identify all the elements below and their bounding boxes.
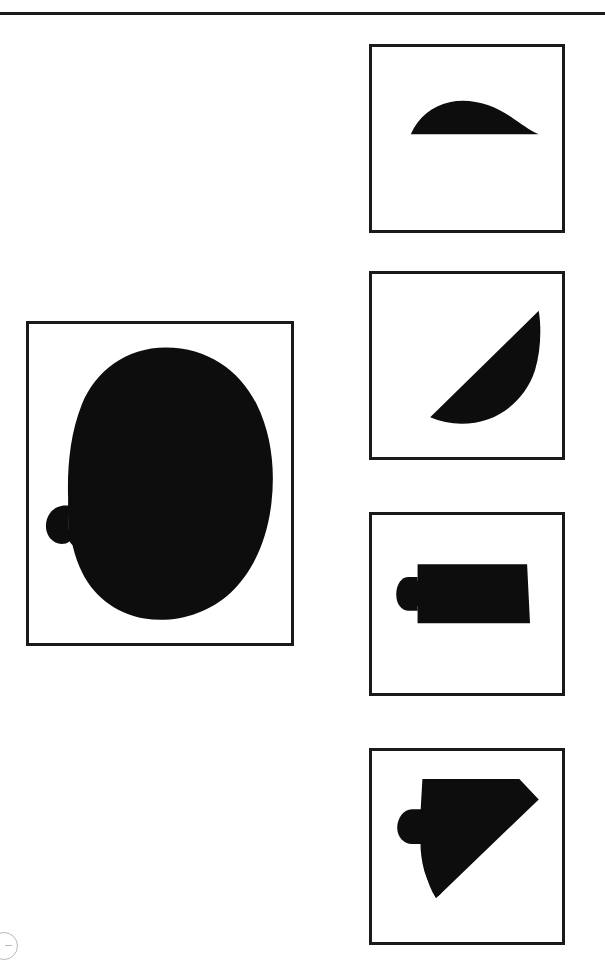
header-rule-divider — [0, 12, 605, 15]
figure-panel-diagonal-half-moon-section-view — [369, 271, 565, 460]
bevelled-section-view-drawing — [372, 751, 562, 942]
rectangular-section-view-drawing — [372, 515, 562, 693]
figure-panel-thin-crescent-section-view — [369, 44, 565, 233]
drawing-sheet — [0, 0, 605, 963]
blob-with-left-nub-shape — [46, 348, 273, 620]
diagonal-lune-shape — [430, 311, 540, 424]
figure-panel-main-elevation-view — [26, 321, 294, 646]
main-elevation-view-drawing — [29, 324, 291, 643]
registration-mark-tick-icon — [5, 945, 12, 946]
registration-mark-icon — [0, 932, 18, 960]
thin-crescent-section-view-drawing — [372, 47, 562, 230]
bevel-left-nub-fill — [397, 809, 422, 844]
figure-panel-rectangular-section-view — [369, 512, 565, 696]
rect-with-left-nub-shape — [399, 564, 530, 623]
shallow-dome-shape — [411, 101, 539, 134]
blob-left-nub-fill — [68, 495, 80, 546]
figure-panel-bevelled-section-view — [369, 748, 565, 945]
rect-left-nub-fill — [396, 577, 417, 611]
diagonal-half-moon-section-view-drawing — [372, 274, 562, 457]
